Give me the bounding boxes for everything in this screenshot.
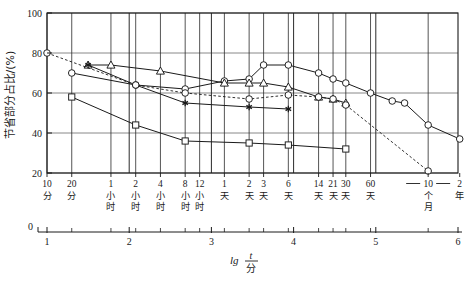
x-tick-label: 21天 <box>328 179 338 201</box>
x-axis-label-lg: lg <box>230 254 239 266</box>
data-point-marker-circle <box>401 100 408 107</box>
y-axis-title: 节省部分占比/(%) <box>3 51 17 140</box>
x-axis-label-denominator: 分 <box>246 263 256 274</box>
x-scale-tick-label: 3 <box>209 236 214 247</box>
data-point-marker-circle <box>285 92 292 99</box>
x-tick-label: 60天 <box>366 179 376 201</box>
grid-lines <box>47 13 458 173</box>
x-tick-label: 30天 <box>341 179 351 201</box>
x-axis-label-numerator: t <box>250 250 253 261</box>
y-tick-label: 20 <box>32 168 42 179</box>
x-axis-time-labels: 10分20分1小时2小时4小时8小时12小时1天2天3天6天14天21天30天6… <box>42 173 464 212</box>
y-axis-label: 节省部分占比/(%) <box>3 51 17 140</box>
line-chart: 20406080100 10分20分1小时2小时4小时8小时12小时1天2天3天… <box>0 0 475 284</box>
x-axis-scale: 0123456 <box>28 221 462 247</box>
y-tick-label: 40 <box>32 128 42 139</box>
x-tick-label: 4小时 <box>156 179 165 212</box>
data-point-marker-circle <box>315 70 322 77</box>
x-tick-label: 12小时 <box>195 179 205 212</box>
data-point-marker-square <box>246 140 252 146</box>
data-point-marker-square <box>182 138 188 144</box>
data-point-marker-circle <box>425 122 432 129</box>
x-tick-label: 2天 <box>245 179 254 201</box>
data-point-marker-square <box>69 94 75 100</box>
data-point-marker-circle <box>342 102 349 109</box>
series-triangle-solid <box>84 61 350 106</box>
data-point-marker-circle <box>367 90 374 97</box>
x-tick-label: 1小时 <box>106 179 115 212</box>
x-scale-tick-label: 5 <box>373 236 378 247</box>
series-line <box>47 53 428 171</box>
x-tick-label: 6天 <box>284 179 293 201</box>
data-point-marker-circle <box>330 96 337 103</box>
x-scale-tick-label: 1 <box>45 236 50 247</box>
x-tick-label: 10分 <box>42 179 52 201</box>
series-circle-solid <box>68 62 463 143</box>
data-point-marker-circle <box>182 90 189 97</box>
x-tick-label: 2年 <box>455 179 464 201</box>
data-point-marker-circle <box>315 94 322 101</box>
data-point-marker-circle <box>456 136 463 143</box>
data-point-marker-circle <box>389 98 396 105</box>
x-tick-label: 8小时 <box>181 179 190 212</box>
data-point-marker-circle <box>68 70 75 77</box>
data-point-marker-circle <box>132 82 139 89</box>
data-point-marker-circle <box>330 76 337 83</box>
x-scale-tick-label: 4 <box>291 236 296 247</box>
y-axis-ticks: 20406080100 <box>27 8 52 179</box>
x-tick-label: 1天 <box>220 179 229 201</box>
y-tick-label: 100 <box>27 8 42 19</box>
data-point-marker-circle <box>246 96 253 103</box>
data-point-marker-circle <box>285 62 292 69</box>
series-circle-dashed <box>44 50 432 175</box>
data-point-marker-circle <box>342 80 349 87</box>
x-tick-label: 10个月 <box>423 179 433 212</box>
data-point-marker-square <box>343 146 349 152</box>
x-scale-tick-label: 2 <box>127 236 132 247</box>
y-tick-label: 60 <box>32 88 42 99</box>
x-tick-label: 20分 <box>67 179 77 201</box>
x-scale-tick-label: 6 <box>456 236 461 247</box>
x-axis-title: lg t 分 <box>230 250 258 274</box>
data-point-marker-circle <box>260 62 267 69</box>
x-scale-origin-label: 0 <box>28 221 33 232</box>
data-point-marker-square <box>285 142 291 148</box>
x-tick-label: 3天 <box>259 179 268 201</box>
x-tick-label: 14天 <box>314 179 324 201</box>
data-point-marker-square <box>133 122 139 128</box>
data-series-layer <box>44 50 463 175</box>
chart-figure: 20406080100 10分20分1小时2小时4小时8小时12小时1天2天3天… <box>0 0 475 284</box>
series-line <box>88 65 346 103</box>
y-tick-label: 80 <box>32 48 42 59</box>
x-tick-label: 2小时 <box>131 179 140 212</box>
